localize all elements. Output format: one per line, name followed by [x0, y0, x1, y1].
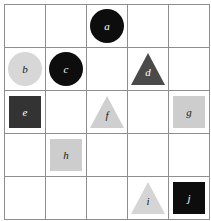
grid-cell-r4-c1[interactable] — [5, 134, 46, 177]
cell-content: h — [46, 134, 86, 176]
grid-cell-r2-c5[interactable] — [169, 48, 210, 91]
grid-row: a — [5, 5, 210, 48]
grid-cell-r1-c1[interactable] — [5, 5, 46, 48]
triangle-shape-d[interactable]: d — [131, 52, 165, 86]
grid-cell-r1-c5[interactable] — [169, 5, 210, 48]
cell-content: c — [46, 48, 86, 90]
grid-cell-r5-c2[interactable] — [46, 177, 87, 220]
grid-cell-r4-c4[interactable] — [128, 134, 169, 177]
grid-cell-r3-c2[interactable] — [46, 91, 87, 134]
shape-label-h: h — [63, 150, 69, 161]
square-shape-e[interactable]: e — [8, 95, 42, 129]
grid-cell-r5-c1[interactable] — [5, 177, 46, 220]
grid-row: ij — [5, 177, 210, 220]
shape-label-c: c — [64, 64, 69, 75]
grid-cell-r5-c5[interactable]: j — [169, 177, 210, 220]
cell-content: i — [128, 177, 168, 219]
grid-row: h — [5, 134, 210, 177]
grid-cell-r4-c5[interactable] — [169, 134, 210, 177]
shape-label-a: a — [104, 21, 110, 32]
grid-cell-r2-c1[interactable]: b — [5, 48, 46, 91]
grid-cell-r2-c4[interactable]: d — [128, 48, 169, 91]
grid-cell-r5-c3[interactable] — [87, 177, 128, 220]
grid-cell-r3-c4[interactable] — [128, 91, 169, 134]
grid-cell-r3-c3[interactable]: f — [87, 91, 128, 134]
square-shape-j[interactable]: j — [172, 181, 206, 215]
shape-grid-figure: abcdefghij — [0, 0, 211, 221]
cell-content: e — [5, 91, 45, 133]
grid-row: bcd — [5, 48, 210, 91]
grid-cell-r2-c3[interactable] — [87, 48, 128, 91]
shape-grid-body: abcdefghij — [5, 5, 210, 220]
cell-content: g — [169, 91, 209, 133]
cell-content: a — [87, 5, 127, 47]
square-shape-g[interactable]: g — [172, 95, 206, 129]
cell-content: d — [128, 48, 168, 90]
triangle-shape-i[interactable]: i — [131, 181, 165, 215]
shape-label-d: d — [145, 67, 151, 78]
shape-label-j: j — [187, 193, 190, 204]
circle-shape-c[interactable]: c — [49, 52, 83, 86]
grid-cell-r4-c2[interactable]: h — [46, 134, 87, 177]
grid-cell-r2-c2[interactable]: c — [46, 48, 87, 91]
grid-cell-r5-c4[interactable]: i — [128, 177, 169, 220]
shape-label-i: i — [146, 196, 149, 207]
shape-label-g: g — [186, 107, 192, 118]
triangle-shape-f[interactable]: f — [90, 95, 124, 129]
grid-row: efg — [5, 91, 210, 134]
grid-cell-r4-c3[interactable] — [87, 134, 128, 177]
shape-grid-table: abcdefghij — [4, 4, 210, 220]
grid-cell-r3-c5[interactable]: g — [169, 91, 210, 134]
cell-content: f — [87, 91, 127, 133]
square-shape-h[interactable]: h — [49, 138, 83, 172]
cell-content: b — [5, 48, 45, 90]
shape-label-e: e — [23, 107, 28, 118]
grid-cell-r3-c1[interactable]: e — [5, 91, 46, 134]
circle-shape-b[interactable]: b — [8, 52, 42, 86]
shape-label-f: f — [105, 110, 108, 121]
shape-label-b: b — [22, 64, 28, 75]
grid-cell-r1-c3[interactable]: a — [87, 5, 128, 48]
grid-cell-r1-c2[interactable] — [46, 5, 87, 48]
grid-cell-r1-c4[interactable] — [128, 5, 169, 48]
circle-shape-a[interactable]: a — [90, 9, 124, 43]
cell-content: j — [169, 177, 209, 219]
